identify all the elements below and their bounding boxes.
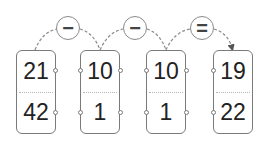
connector-dot: [78, 110, 83, 115]
connector-dot: [144, 68, 149, 73]
minus-icon: −: [129, 18, 141, 38]
connector-dot: [144, 110, 149, 115]
minus-operator-2: −: [123, 16, 147, 40]
card-top-value: 19: [214, 51, 252, 92]
card-top-value: 21: [17, 51, 55, 92]
connector-dot: [184, 68, 189, 73]
card-top-value: 10: [147, 51, 185, 92]
card-bottom-value: 1: [147, 92, 185, 133]
minus-operator-1: −: [56, 16, 80, 40]
connector-dot: [53, 68, 58, 73]
connector-dot: [118, 68, 123, 73]
card-4-result: 19 22: [213, 50, 253, 134]
minus-icon: −: [62, 18, 74, 38]
connector-dot: [118, 110, 123, 115]
card-bottom-value: 1: [81, 92, 119, 133]
connector-dot: [78, 68, 83, 73]
card-bottom-value: 42: [17, 92, 55, 133]
card-top-value: 10: [81, 51, 119, 92]
connector-dot: [211, 110, 216, 115]
connector-dot: [184, 110, 189, 115]
card-bottom-value: 22: [214, 92, 252, 133]
connector-dot: [53, 110, 58, 115]
equals-operator: =: [190, 16, 214, 40]
card-1: 21 42: [16, 50, 56, 134]
card-3: 10 1: [146, 50, 186, 134]
equals-icon: =: [196, 18, 208, 38]
connector-dot: [211, 68, 216, 73]
card-2: 10 1: [80, 50, 120, 134]
